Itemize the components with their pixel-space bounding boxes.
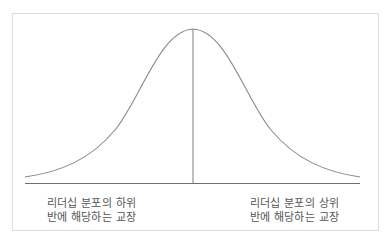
upper-half-label-line1: 리더십 분포의 상위	[250, 197, 339, 211]
lower-half-label-line1: 리더십 분포의 하위	[47, 197, 136, 211]
upper-half-label-line2: 반에 해당하는 교장	[250, 211, 339, 225]
lower-half-label-line2: 반에 해당하는 교장	[47, 211, 136, 225]
lower-half-label: 리더십 분포의 하위 반에 해당하는 교장	[47, 197, 136, 225]
upper-half-label: 리더십 분포의 상위 반에 해당하는 교장	[250, 197, 339, 225]
